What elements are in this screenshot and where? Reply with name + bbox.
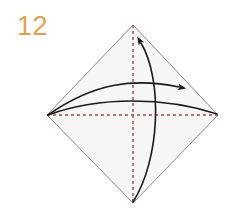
origami-step-figure: 12 <box>0 0 236 211</box>
origami-diagram <box>0 0 236 211</box>
